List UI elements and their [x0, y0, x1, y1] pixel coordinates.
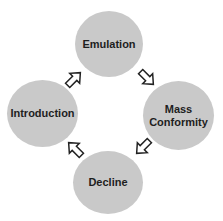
node-decline: Decline	[73, 151, 143, 214]
node-mass-conformity-label: Mass Conformity	[149, 103, 208, 129]
node-emulation: Emulation	[75, 11, 143, 77]
fashion-cycle-diagram: Emulation Mass Conformity Decline Introd…	[0, 0, 223, 221]
node-mass-conformity-line1: Mass	[149, 103, 208, 116]
arrow-down-left-icon	[132, 136, 154, 158]
arrow-up-left-icon	[64, 138, 86, 160]
node-decline-label: Decline	[88, 176, 127, 189]
node-introduction: Introduction	[7, 80, 78, 147]
node-introduction-label: Introduction	[10, 107, 74, 120]
node-mass-conformity-line2: Conformity	[149, 116, 208, 129]
arrow-up-right-icon	[63, 68, 85, 90]
node-emulation-label: Emulation	[82, 38, 135, 51]
arrow-down-right-icon	[136, 67, 158, 89]
